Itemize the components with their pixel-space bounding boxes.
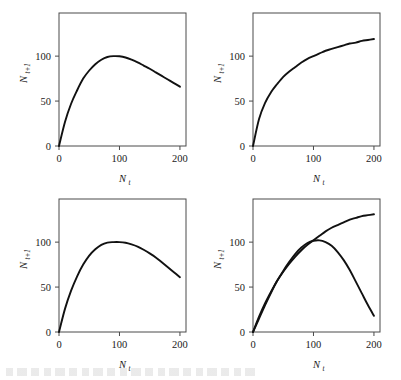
y-tick-label: 50 bbox=[235, 96, 246, 107]
x-tick-label: 100 bbox=[112, 339, 128, 350]
y-tick-label: 100 bbox=[229, 51, 245, 62]
svg-text:N: N bbox=[18, 261, 29, 270]
y-tick-label: 50 bbox=[235, 282, 246, 293]
cropped-caption-text bbox=[6, 368, 256, 376]
x-tick-label: 100 bbox=[306, 153, 322, 164]
x-tick-label: 0 bbox=[250, 153, 255, 164]
svg-text:N: N bbox=[212, 261, 223, 270]
svg-text:t+1: t+1 bbox=[24, 63, 32, 73]
y-axis-label: Nt+1 bbox=[18, 63, 32, 84]
y-tick-label: 50 bbox=[41, 96, 52, 107]
y-tick-label: 0 bbox=[240, 141, 245, 152]
x-axis-label: Nt bbox=[118, 173, 132, 187]
data-curve bbox=[253, 39, 374, 146]
x-tick-label: 100 bbox=[112, 153, 128, 164]
panel-top-left: 0100200050100NtNt+1 bbox=[0, 0, 207, 194]
plot-area: 0100200050100NtNt+1 bbox=[0, 0, 207, 194]
y-axis-label: Nt+1 bbox=[18, 249, 32, 270]
x-tick-label: 0 bbox=[56, 339, 61, 350]
svg-text:N: N bbox=[312, 173, 321, 184]
data-curve bbox=[59, 242, 180, 332]
x-axis-label: Nt bbox=[312, 359, 326, 373]
y-tick-label: 100 bbox=[35, 237, 51, 248]
data-curve bbox=[253, 214, 374, 332]
y-axis-label: Nt+1 bbox=[212, 249, 226, 270]
y-tick-label: 100 bbox=[35, 51, 51, 62]
panel-bottom-right: 0100200050100NtNt+1 bbox=[194, 186, 401, 380]
svg-text:N: N bbox=[212, 75, 223, 84]
svg-text:N: N bbox=[312, 359, 321, 370]
x-tick-label: 200 bbox=[366, 339, 382, 350]
svg-text:t+1: t+1 bbox=[218, 63, 226, 73]
panel-top-right: 0100200050100NtNt+1 bbox=[194, 0, 401, 194]
plot-frame bbox=[253, 13, 380, 146]
svg-text:N: N bbox=[18, 75, 29, 84]
x-axis-label: Nt bbox=[312, 173, 326, 187]
y-tick-label: 0 bbox=[240, 327, 245, 338]
plot-frame bbox=[253, 199, 380, 332]
x-tick-label: 100 bbox=[306, 339, 322, 350]
y-tick-label: 0 bbox=[46, 141, 51, 152]
x-tick-label: 200 bbox=[366, 153, 382, 164]
svg-text:t: t bbox=[323, 365, 326, 373]
plot-area: 0100200050100NtNt+1 bbox=[0, 186, 207, 380]
data-curve bbox=[59, 56, 180, 146]
y-tick-label: 50 bbox=[41, 282, 52, 293]
panel-bottom-left: 0100200050100NtNt+1 bbox=[0, 186, 207, 380]
data-curve bbox=[253, 240, 374, 332]
x-tick-label: 200 bbox=[172, 153, 188, 164]
plot-area: 0100200050100NtNt+1 bbox=[194, 186, 401, 380]
four-panel-figure: 0100200050100NtNt+1 0100200050100NtNt+1 … bbox=[0, 0, 401, 380]
y-tick-label: 0 bbox=[46, 327, 51, 338]
svg-text:t+1: t+1 bbox=[24, 249, 32, 259]
x-tick-label: 0 bbox=[56, 153, 61, 164]
x-tick-label: 0 bbox=[250, 339, 255, 350]
svg-text:t+1: t+1 bbox=[218, 249, 226, 259]
plot-area: 0100200050100NtNt+1 bbox=[194, 0, 401, 194]
svg-text:N: N bbox=[118, 173, 127, 184]
x-tick-label: 200 bbox=[172, 339, 188, 350]
y-tick-label: 100 bbox=[229, 237, 245, 248]
y-axis-label: Nt+1 bbox=[212, 63, 226, 84]
